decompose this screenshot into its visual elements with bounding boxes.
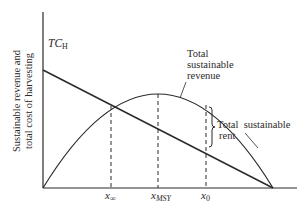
tc-label: TCH [48, 37, 68, 51]
rent-label-line1: Total sustainable [217, 119, 291, 130]
revenue-leader [180, 82, 186, 98]
y-axis-label-line2: total cost of harvesting [23, 52, 34, 149]
y-axis-label: Sustainable revenue and total cost of ha… [11, 49, 34, 152]
rent-label-line2: rent [219, 130, 235, 141]
x-infinity-label: x∞ [104, 189, 116, 203]
revenue-label-line2: sustainable [187, 59, 234, 70]
fishery-economics-diagram: Sustainable revenue and total cost of ha… [0, 0, 307, 211]
rent-leader [245, 133, 258, 148]
x-zero-label: x0 [200, 189, 210, 203]
x-msy-label: xMSY [150, 189, 173, 203]
y-axis-label-line1: Sustainable revenue and [11, 49, 22, 152]
revenue-label-line3: revenue [187, 70, 221, 81]
revenue-label-line1: Total [187, 48, 209, 59]
